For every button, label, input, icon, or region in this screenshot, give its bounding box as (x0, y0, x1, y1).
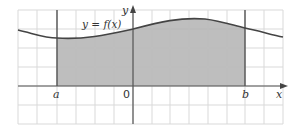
label-b: b (242, 88, 249, 101)
function-label: y = f(x) (82, 18, 121, 30)
area-diagram (0, 0, 293, 133)
label-origin: 0 (123, 88, 130, 101)
y-axis-arrow-icon (130, 5, 136, 13)
label-x-axis: x (276, 88, 282, 101)
label-y-axis: y (122, 4, 128, 17)
label-a: a (53, 88, 60, 101)
